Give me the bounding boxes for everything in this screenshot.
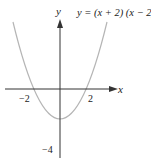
tick-label-y-neg-4: −4 <box>42 144 53 155</box>
y-axis-label: y <box>55 5 61 17</box>
tick-label-x-neg-2: −2 <box>19 93 30 104</box>
equation-label: y = (x + 2) (x − 2) <box>76 7 151 19</box>
y-axis-arrow-icon <box>57 19 63 28</box>
parabola-graph: y x y = (x + 2) (x − 2) −2 2 −4 <box>0 0 151 160</box>
x-axis-label: x <box>117 83 123 95</box>
tick-label-x-2: 2 <box>88 93 93 104</box>
x-axis-arrow-icon <box>109 86 118 92</box>
